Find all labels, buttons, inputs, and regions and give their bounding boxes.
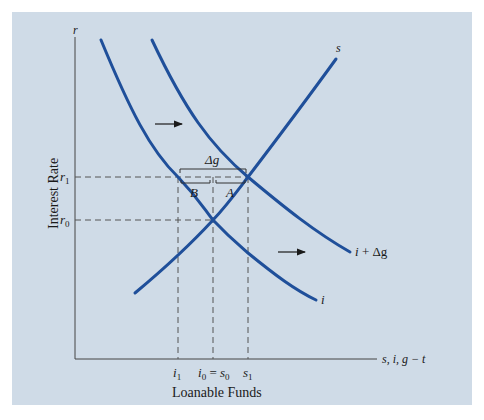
i1-tick-label: i1: [173, 365, 181, 382]
delta-g-label: Δg: [204, 152, 220, 167]
r0-tick-label: r0: [60, 212, 70, 229]
i0-s0-tick-label: i0 = s0: [198, 365, 230, 382]
r1-tick-label: r1: [60, 169, 70, 186]
curve-i-plus-delta-g-label: i + Δg: [355, 244, 388, 259]
y-axis-var-label: r: [73, 23, 78, 37]
curve-s: [135, 59, 336, 293]
a-bracket: [216, 180, 245, 183]
guide-lines: [75, 177, 248, 359]
a-label: A: [225, 185, 234, 200]
x-axis-var-label: s, i, g − t: [382, 352, 426, 366]
s1-tick-label: s1: [243, 365, 253, 382]
y-axis-title: Interest Rate: [46, 158, 61, 229]
loanable-funds-chart: Δg B A s i i + Δg r s, i, g − t r1 r0 i1…: [0, 0, 484, 420]
delta-g-bracket: [180, 169, 246, 173]
curve-s-label: s: [336, 41, 341, 55]
b-bracket: [181, 180, 210, 183]
b-label: B: [190, 185, 198, 200]
curve-i: [101, 40, 316, 300]
curve-i-label: i: [321, 292, 325, 307]
x-axis-title: Loanable Funds: [172, 385, 262, 400]
curve-i-plus-delta-g: [152, 40, 350, 252]
